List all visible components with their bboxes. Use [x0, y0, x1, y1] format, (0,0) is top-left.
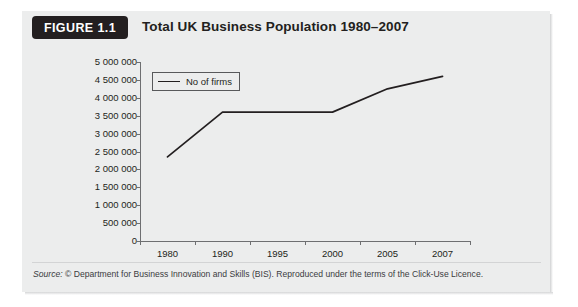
- figure-title: Total UK Business Population 1980–2007: [142, 19, 409, 34]
- source-label: Source:: [33, 269, 63, 279]
- chart-plot-area: 5 000 0004 500 0004 000 0003 500 0003 00…: [85, 52, 505, 252]
- panel-shadow-right: [550, 14, 553, 292]
- source-note: Source: © Department for Business Innova…: [33, 269, 543, 279]
- legend-line-swatch-icon: [158, 81, 180, 82]
- figure-container: FIGURE 1.1 Total UK Business Population …: [0, 0, 578, 307]
- panel-shadow-bottom: [25, 292, 553, 295]
- figure-number-badge: FIGURE 1.1: [32, 16, 128, 39]
- source-text: © Department for Business Innovation and…: [65, 269, 483, 279]
- figure-number-label: FIGURE 1.1: [44, 21, 116, 35]
- legend-entry-label: No of firms: [186, 76, 232, 87]
- footer-divider: [32, 262, 541, 263]
- series-line-chart: [85, 52, 505, 252]
- chart-legend: No of firms: [152, 72, 240, 91]
